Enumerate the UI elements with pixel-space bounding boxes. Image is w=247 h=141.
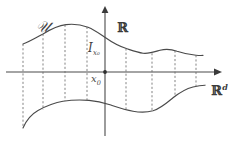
upper-boundary-curve bbox=[23, 24, 203, 55]
base-point-label-subscript: 0 bbox=[97, 79, 101, 87]
figure-container: 𝒰 ℝ ℝd Ix₀ x0 bbox=[0, 0, 247, 141]
horizontal-axis-label: ℝd bbox=[211, 83, 228, 97]
base-point-marker bbox=[103, 70, 107, 74]
lower-boundary-curve bbox=[23, 85, 205, 128]
open-set-label: 𝒰 bbox=[36, 20, 50, 35]
vertical-axis-arrowhead bbox=[102, 6, 109, 13]
fiber-label-subscript: x₀ bbox=[93, 49, 100, 57]
horizontal-axis-arrowhead bbox=[214, 68, 222, 75]
horizontal-axis-label-superscript: d bbox=[222, 82, 228, 92]
horizontal-axis-label-base: ℝ bbox=[211, 83, 222, 98]
fiber-label: Ix₀ bbox=[88, 42, 100, 57]
vertical-axis-label: ℝ bbox=[117, 21, 128, 34]
base-point-label: x0 bbox=[91, 74, 101, 87]
horizontal-axis bbox=[6, 68, 222, 75]
